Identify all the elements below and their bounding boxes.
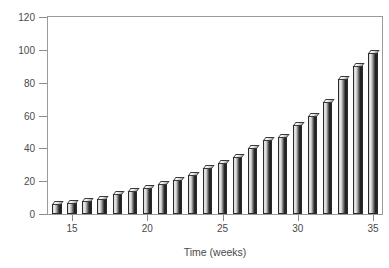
bar [203, 168, 212, 214]
bar-face [203, 168, 212, 214]
bar-top-face [113, 191, 125, 195]
bar-face [263, 140, 272, 214]
bar-top-face [233, 154, 245, 158]
y-axis-tick [39, 50, 47, 51]
bar [158, 184, 167, 214]
bar [67, 203, 76, 214]
y-axis-tick [39, 116, 47, 117]
bar-top-face [278, 134, 290, 138]
bar-face [128, 191, 137, 214]
y-axis-tick-label: 60 [0, 110, 35, 121]
y-axis-tick-label: 40 [0, 143, 35, 154]
bar-face [67, 203, 76, 214]
bar [323, 102, 332, 214]
bar [173, 180, 182, 214]
y-axis-tick [39, 17, 47, 18]
bar [52, 204, 61, 214]
bar [368, 53, 377, 214]
bar-top-face [293, 122, 305, 126]
bar-top-face [338, 76, 350, 80]
bar-top-face [353, 63, 365, 67]
y-axis-tick-label: 20 [0, 176, 35, 187]
bar-top-face [143, 185, 155, 189]
x-axis-tick-label: 25 [208, 223, 238, 234]
bar-face [353, 66, 362, 214]
bar-top-face [188, 172, 200, 176]
bar-series [48, 17, 382, 214]
bar-top-face [323, 99, 335, 103]
bar [338, 79, 347, 214]
bar-top-face [52, 201, 64, 205]
bar [308, 116, 317, 215]
bar [263, 140, 272, 214]
bar-top-face [97, 196, 109, 200]
bar-top-face [248, 145, 260, 149]
x-axis-tick [147, 215, 148, 221]
y-axis-tick-label: 100 [0, 44, 35, 55]
bar-top-face [368, 50, 380, 54]
bar-face [233, 157, 242, 214]
bar [233, 157, 242, 214]
bar [97, 199, 106, 214]
x-axis-tick [223, 215, 224, 221]
bar-face [188, 175, 197, 214]
bar-top-face [67, 200, 79, 204]
x-axis-tick-label: 35 [358, 223, 388, 234]
y-axis-tick [39, 214, 47, 215]
bar-face [97, 199, 106, 214]
bar-top-face [173, 177, 185, 181]
bar-face [173, 180, 182, 214]
bar [188, 175, 197, 214]
bar [218, 163, 227, 214]
x-axis-tick-label: 20 [132, 223, 162, 234]
bar-face [248, 148, 257, 214]
bar-face [143, 188, 152, 214]
y-axis-tick-label: 0 [0, 209, 35, 220]
bar-face [338, 79, 347, 214]
x-axis-tick-label: 30 [283, 223, 313, 234]
bar [248, 148, 257, 214]
bar-top-face [82, 198, 94, 202]
x-axis-title: Time (weeks) [45, 246, 385, 258]
chart-figure: Lung volume (ml) 020406080100120 1520253… [0, 0, 389, 268]
x-axis-tick [373, 215, 374, 221]
bar [128, 191, 137, 214]
bar-top-face [218, 160, 230, 164]
bar-top-face [158, 181, 170, 185]
bar-face [52, 204, 61, 214]
y-axis-tick [39, 148, 47, 149]
bar-top-face [128, 188, 140, 192]
bar-face [293, 125, 302, 214]
bar-top-face [308, 113, 320, 117]
bar [113, 194, 122, 214]
bar-face [308, 116, 317, 215]
bar [143, 188, 152, 214]
bar [353, 66, 362, 214]
bar [278, 137, 287, 214]
y-axis-tick [39, 83, 47, 84]
bar-face [158, 184, 167, 214]
x-axis-tick [72, 215, 73, 221]
bar-face [113, 194, 122, 214]
bar [293, 125, 302, 214]
x-axis-tick [298, 215, 299, 221]
x-axis-tick-label: 15 [57, 223, 87, 234]
bar [82, 201, 91, 214]
bar-top-face [203, 165, 215, 169]
bar-face [82, 201, 91, 214]
y-axis-tick [39, 181, 47, 182]
bar-face [218, 163, 227, 214]
bar-top-face [263, 137, 275, 141]
bar-face [368, 53, 377, 214]
bar-face [278, 137, 287, 214]
y-axis-tick-label: 120 [0, 12, 35, 23]
bar-face [323, 102, 332, 214]
y-axis-tick-label: 80 [0, 77, 35, 88]
